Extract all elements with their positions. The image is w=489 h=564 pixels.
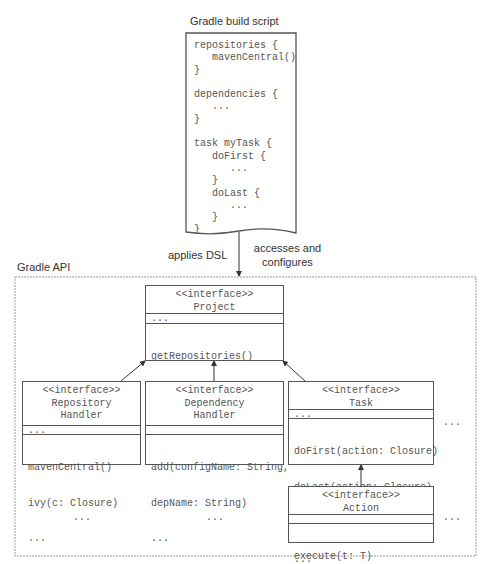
action-name: Action [289, 503, 433, 516]
dependency-handler-name-line1: Dependency [146, 398, 283, 411]
ellipsis-right-of-task: ... [443, 417, 461, 428]
action-op: execute(t: T) [294, 551, 433, 563]
project-op: getRepositories() [151, 351, 283, 363]
build-script-line: mavenCentral() [194, 52, 296, 64]
action-operations: execute(t: T) [289, 524, 433, 564]
build-script-line: task myTask { [194, 138, 296, 150]
build-script-code: repositories { mavenCentral()}dependenci… [194, 40, 296, 237]
repository-handler-name-line1: Repository [23, 398, 140, 411]
repository-handler-op: ... [28, 535, 140, 543]
build-script-line: ... [194, 101, 296, 113]
ellipsis-bottom-middle: ... [206, 512, 224, 523]
dependency-handler-operations: add(configName: String, depName: String)… [146, 435, 283, 564]
build-script-title: Gradle build script [190, 15, 279, 27]
build-script-line: } [194, 114, 296, 126]
task-attributes: ... [289, 410, 433, 419]
dependency-handler-interface-box[interactable]: <<interface>> Dependency Handler add(con… [145, 381, 284, 465]
build-script-line: } [194, 224, 296, 236]
repository-handler-operations: mavenCentral() ivy(c: Closure) ... [23, 435, 140, 564]
repository-handler-interface-box[interactable]: <<interface>> Repository Handler ... mav… [22, 381, 141, 465]
dependency-handler-op: depName: String) [151, 498, 283, 510]
project-header: <<interface>> Project [146, 286, 283, 314]
task-op: doFirst(action: Closure) [294, 446, 433, 458]
repository-handler-op: mavenCentral() [28, 462, 140, 474]
ellipsis-right-of-action: ... [443, 512, 461, 523]
accesses-label-line2: configures [250, 255, 325, 269]
action-header: <<interface>> Action [289, 487, 433, 515]
action-stereotype: <<interface>> [289, 490, 433, 503]
build-script-line [194, 77, 296, 89]
build-script-line: } [194, 175, 296, 187]
repository-handler-stereotype: <<interface>> [23, 385, 140, 398]
action-attributes [289, 515, 433, 524]
build-script-line: ... [194, 163, 296, 175]
dependency-handler-stereotype: <<interface>> [146, 385, 283, 398]
build-script-line: ... [194, 200, 296, 212]
repository-handler-name-line2: Handler [23, 410, 140, 423]
dependency-handler-name-line2: Handler [146, 410, 283, 423]
dependency-handler-op: add(configName: String, [151, 462, 283, 474]
repository-to-project-arrow [121, 361, 145, 381]
build-script-line: } [194, 65, 296, 77]
dependency-handler-op: ... [151, 535, 283, 543]
action-interface-box[interactable]: <<interface>> Action execute(t: T) [288, 486, 434, 543]
project-attributes: ... [146, 314, 283, 324]
build-script-line: } [194, 212, 296, 224]
build-script-line: repositories { [194, 40, 296, 52]
task-interface-box[interactable]: <<interface>> Task ... doFirst(action: C… [288, 381, 434, 465]
repository-handler-attributes: ... [23, 426, 140, 435]
dependency-handler-attributes [146, 426, 283, 435]
project-interface-box[interactable]: <<interface>> Project ... getRepositorie… [145, 285, 284, 361]
accesses-configures-label: accesses and configures [250, 241, 325, 269]
accesses-label-line1: accesses and [250, 241, 325, 255]
task-header: <<interface>> Task [289, 382, 433, 410]
task-stereotype: <<interface>> [289, 385, 433, 398]
project-stereotype: <<interface>> [146, 289, 283, 302]
build-script-line [194, 126, 296, 138]
repository-handler-op: ivy(c: Closure) [28, 498, 140, 510]
applies-dsl-label: applies DSL [168, 248, 227, 262]
build-script-line: doLast { [194, 188, 296, 200]
gradle-api-title: Gradle API [17, 261, 70, 273]
build-script-line: doFirst { [194, 151, 296, 163]
ellipsis-bottom-left: ... [73, 512, 91, 523]
dependency-handler-header: <<interface>> Dependency Handler [146, 382, 283, 426]
repository-handler-header: <<interface>> Repository Handler [23, 382, 140, 426]
build-script-line: dependencies { [194, 89, 296, 101]
task-to-project-arrow [283, 361, 305, 381]
